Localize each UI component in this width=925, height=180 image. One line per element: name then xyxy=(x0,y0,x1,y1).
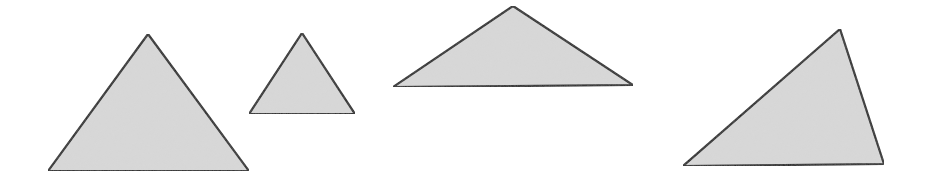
triangle-2 xyxy=(249,33,355,114)
triangle-3 xyxy=(393,6,633,87)
triangle-1 xyxy=(48,34,249,171)
triangle-4 xyxy=(683,29,884,166)
triangles-diagram xyxy=(0,0,925,180)
